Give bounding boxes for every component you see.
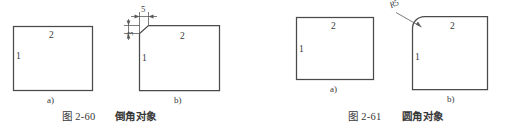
fig-2-61-a-edge-label-2: 2 bbox=[331, 22, 336, 32]
chamfer-horizontal-dimension-value: 5 bbox=[141, 5, 145, 14]
fig-2-60-a-edge-label-2: 2 bbox=[49, 31, 54, 41]
fig-2-60-a-edge-label-1: 1 bbox=[16, 52, 21, 62]
fig-2-61-b-panel-label: b) bbox=[447, 95, 455, 104]
figure-sheet: 1 2 a) 1 2 b) 5 3 图 2-60 倒角对象 1 2 a) 1 2… bbox=[0, 0, 510, 131]
fig-2-60-caption-title: 倒角对象 bbox=[115, 112, 156, 123]
fig-2-61-caption-title: 圆角对象 bbox=[402, 112, 443, 123]
fig-2-60-b-panel-label: b) bbox=[174, 96, 182, 105]
fig-2-60-caption-number: 图 2-60 bbox=[62, 112, 96, 123]
fig-2-61-b-edge-label-1: 1 bbox=[415, 53, 420, 63]
fig-2-60-b-edge-label-2: 2 bbox=[180, 32, 185, 42]
arrow-left-icon bbox=[135, 15, 140, 19]
fig-2-61-b-edge-label-2: 2 bbox=[450, 22, 455, 32]
fig-2-60-a-panel-label: a) bbox=[47, 96, 54, 105]
arrow-right-icon bbox=[149, 15, 154, 19]
fig-2-61-caption-number: 图 2-61 bbox=[348, 112, 382, 123]
arrow-up-icon bbox=[127, 21, 131, 26]
chamfer-vertical-dimension-value: 3 bbox=[126, 32, 135, 36]
fig-2-61-a-panel-label: a) bbox=[330, 85, 337, 94]
leader-arrow-icon bbox=[416, 22, 422, 27]
fig-2-61-a-edge-label-1: 1 bbox=[299, 45, 304, 55]
fig-2-60-b-edge-label-1: 1 bbox=[142, 54, 147, 64]
